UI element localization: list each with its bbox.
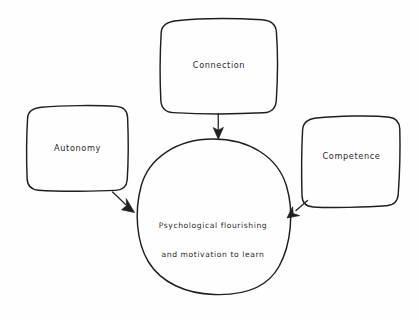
- node-label-outcome-line1: Psychological flourishing: [142, 221, 284, 231]
- node-label-autonomy: Autonomy: [27, 143, 128, 154]
- node-label-competence: Competence: [302, 151, 401, 162]
- edge-line-autonomy: [113, 192, 126, 205]
- node-label-connection: Connection: [160, 60, 278, 71]
- edge-autonomy-to-outcome: [113, 192, 135, 213]
- diagram-canvas: Connection Autonomy Competence Psycholog…: [0, 0, 419, 320]
- edge-connection-to-outcome: [213, 114, 223, 140]
- node-label-outcome: Psychological flourishing and motivation…: [142, 202, 284, 279]
- arrowhead-autonomy: [122, 199, 135, 213]
- node-label-outcome-line2: and motivation to learn: [142, 250, 284, 260]
